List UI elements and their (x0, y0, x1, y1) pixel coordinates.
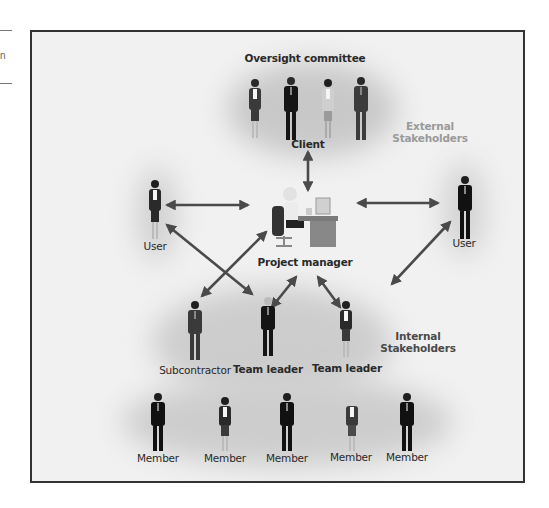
member-3-label: Member (266, 452, 308, 464)
member-1-figure (149, 392, 167, 452)
committee-member-1-figure (246, 78, 264, 140)
arrow-pm-subcontractor (202, 232, 266, 296)
member-5-figure (398, 392, 416, 452)
team-leader-1-label: Team leader (233, 363, 303, 375)
sidebar-rule-bottom (0, 83, 12, 84)
team-leader-2-figure (337, 300, 355, 358)
subcontractor-label: Subcontractor (159, 364, 231, 376)
user-left-label: User (143, 240, 166, 252)
member-2-figure (216, 396, 234, 452)
member-2-label: Member (204, 452, 246, 464)
committee-member-2-figure (282, 76, 300, 142)
stakeholder-diagram-frame: Oversight committee External Stakeholder… (30, 30, 525, 483)
sidebar-partial-text: n (0, 50, 6, 61)
team-leader-2-label: Team leader (312, 362, 382, 374)
user-right-label: User (452, 237, 475, 249)
member-5-label: Member (386, 451, 428, 463)
member-4-figure (343, 396, 361, 452)
sidebar-rule-top (0, 30, 12, 31)
team-leader-1-figure (259, 296, 277, 358)
project-manager-desk-figure (270, 184, 342, 252)
member-3-figure (278, 392, 296, 452)
committee-member-4-figure (352, 76, 370, 142)
project-manager-label: Project manager (257, 256, 352, 268)
client-label: Client (291, 138, 324, 150)
user-left-figure (146, 179, 164, 241)
subcontractor-figure (186, 300, 204, 362)
arrow-userright-teamleader2 (392, 222, 450, 284)
member-1-label: Member (137, 452, 179, 464)
member-4-label: Member (330, 451, 372, 463)
committee-member-3-figure (319, 78, 337, 140)
user-right-figure (456, 175, 474, 241)
